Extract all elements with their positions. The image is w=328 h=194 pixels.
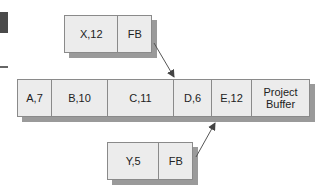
top-feeding-chain: X,12 FB <box>64 15 152 53</box>
project-buffer-label-line2: Buffer <box>266 98 295 110</box>
feeding-buffer-top-label: FB <box>128 28 142 40</box>
task-e-label: E,12 <box>220 92 243 104</box>
top-feed-arrow-icon <box>154 43 174 77</box>
task-e-cell: E,12 <box>212 80 252 116</box>
task-y-cell: Y,5 <box>108 143 159 179</box>
project-buffer-label-line1: Project <box>263 86 297 98</box>
main-critical-chain: A,7 B,10 C,11 D,6 E,12 Project Buffer <box>17 79 310 117</box>
task-c-cell: C,11 <box>108 80 174 116</box>
task-a-label: A,7 <box>26 92 43 104</box>
task-d-label: D,6 <box>184 92 201 104</box>
task-b-cell: B,10 <box>52 80 108 116</box>
bottom-feeding-chain: Y,5 FB <box>107 142 193 180</box>
task-c-label: C,11 <box>129 92 151 104</box>
task-x-cell: X,12 <box>65 16 118 52</box>
task-d-cell: D,6 <box>174 80 212 116</box>
task-a-cell: A,7 <box>18 80 52 116</box>
cropped-edge-line <box>0 66 8 68</box>
feeding-buffer-top-cell: FB <box>118 16 151 52</box>
bottom-feed-arrow-icon <box>196 123 215 157</box>
feeding-buffer-bottom-label: FB <box>169 155 183 167</box>
cropped-edge-block <box>0 12 8 33</box>
task-b-label: B,10 <box>68 92 91 104</box>
feeding-buffer-bottom-cell: FB <box>159 143 192 179</box>
task-y-label: Y,5 <box>126 155 141 167</box>
task-x-label: X,12 <box>80 28 103 40</box>
project-buffer-cell: Project Buffer <box>252 80 309 116</box>
